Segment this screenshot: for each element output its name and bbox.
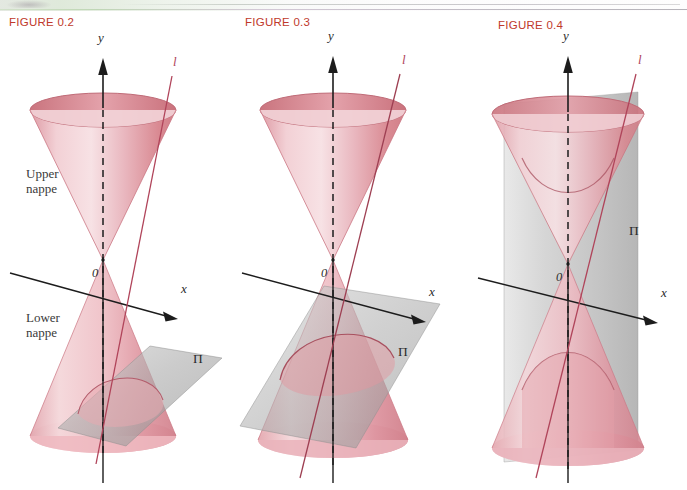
label-origin-0-4: 0 [556,270,562,285]
label-origin-0-2: 0 [92,266,98,281]
label-line-l-0-2: l [173,54,177,70]
label-plane-pi-0-4: Π [629,223,639,239]
scan-artifact-rule [0,9,687,10]
plane-pi-0-3 [240,286,440,448]
figure-0-4: 0 y x l Π [458,28,687,488]
label-upper-nappe-line1: Upper [26,166,59,181]
label-lower-nappe-line1: Lower [26,310,60,325]
figure-0-2-drawing [0,28,230,488]
label-plane-pi-0-3: Π [398,344,408,360]
label-origin-0-3: 0 [321,266,327,281]
figure-0-3: 0 y x l Π [228,28,458,488]
label-y-axis-0-3: y [328,28,334,44]
origin-point-0-2 [101,258,104,261]
label-plane-pi-0-2: Π [193,351,203,367]
label-line-l-0-3: l [402,52,406,68]
origin-point-0-4 [566,262,569,265]
scan-artifact-smudge [6,0,52,8]
figure-label-0-2: FIGURE 0.2 [9,16,74,28]
label-lower-nappe-line2: nappe [26,325,57,340]
figure-label-0-3: FIGURE 0.3 [245,16,310,28]
figure-0-2: Upper nappe Lower nappe 0 y x l Π [0,28,230,488]
scan-artifact-rule-secondary [120,4,680,5]
label-x-axis-0-3: x [429,284,435,300]
label-x-axis-0-2: x [181,281,187,297]
figure-0-3-drawing [228,28,458,488]
label-y-axis-0-2: y [98,30,104,46]
origin-point-0-3 [331,258,334,261]
label-upper-nappe-line2: nappe [26,181,57,196]
label-y-axis-0-4: y [563,28,569,44]
figure-0-4-drawing [458,28,687,488]
label-line-l-0-4: l [638,52,642,68]
label-x-axis-0-4: x [661,285,667,301]
figure-page: FIGURE 0.2 [0,0,687,490]
